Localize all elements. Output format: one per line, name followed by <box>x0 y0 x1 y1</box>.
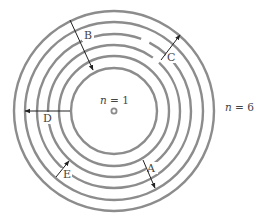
bohr-orbit-diagram: A B C D E n = 1 n = 6 <box>0 0 260 216</box>
label-a: A <box>146 162 156 175</box>
label-c: C <box>167 51 175 64</box>
nucleus <box>111 108 116 113</box>
label-n1: n = 1 <box>100 94 129 106</box>
label-n6: n = 6 <box>225 101 254 113</box>
label-e: E <box>63 168 71 181</box>
orbit-n2 <box>59 56 169 166</box>
label-b: B <box>84 29 92 42</box>
orbit-n1 <box>71 68 157 154</box>
label-d: D <box>43 112 52 125</box>
